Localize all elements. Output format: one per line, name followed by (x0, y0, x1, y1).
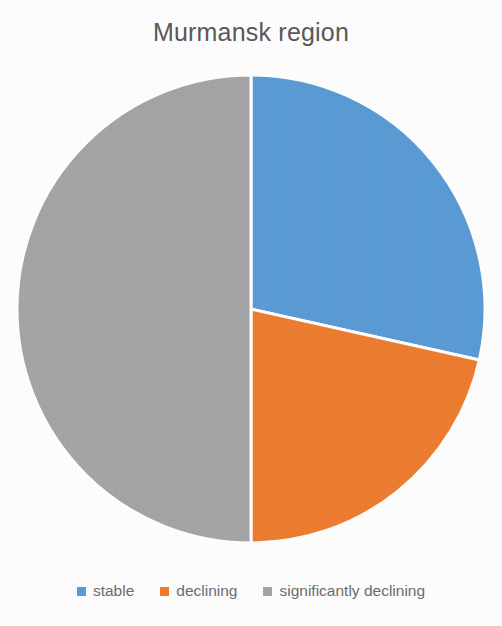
pie-slice-significantly-declining[interactable] (17, 75, 251, 543)
legend-label-stable: stable (93, 583, 134, 599)
legend-item-significantly-declining[interactable]: significantly declining (263, 583, 425, 599)
square-marker-orange-icon (160, 587, 169, 596)
chart-title: Murmansk region (0, 18, 502, 47)
square-marker-gray-icon (263, 587, 272, 596)
legend-item-stable[interactable]: stable (77, 583, 134, 599)
square-marker-blue-icon (77, 587, 86, 596)
pie-slice-group (17, 75, 485, 543)
legend-label-declining: declining (176, 583, 237, 599)
chart-legend: stable declining significantly declining (0, 578, 502, 604)
legend-item-declining[interactable]: declining (160, 583, 237, 599)
legend-label-significantly-declining: significantly declining (279, 583, 425, 599)
pie-plot-area (16, 72, 486, 546)
pie-svg (16, 72, 486, 546)
pie-chart-figure: Murmansk region stable declining signifi… (0, 0, 502, 626)
